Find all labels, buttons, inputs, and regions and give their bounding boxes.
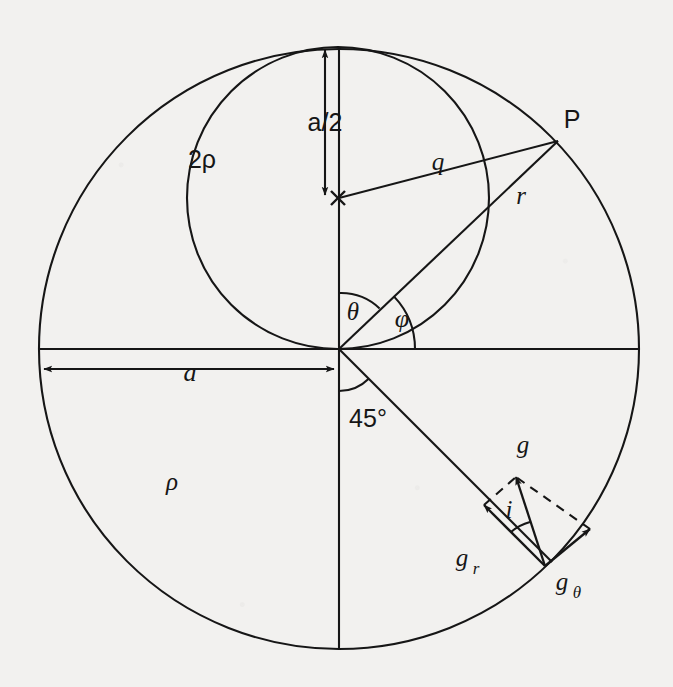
label-g-r-base: g [456, 544, 469, 571]
label-rho: ρ [165, 468, 178, 495]
angle-arc-theta [339, 293, 380, 308]
dashed-closure-right [516, 477, 590, 529]
label-point-p: P [564, 105, 581, 133]
label-angle-45: 45° [349, 404, 387, 432]
label-g-theta-base: g [556, 568, 569, 595]
label-phi: φ [395, 304, 409, 333]
vector-g-theta [545, 529, 590, 566]
geometry-figure: a/2 2ρ ρ a q r P θ φ 45° g i g r g θ [0, 0, 673, 687]
label-r: r [516, 182, 526, 209]
label-g-theta-sub: θ [573, 583, 581, 602]
diagram-page: a/2 2ρ ρ a q r P θ φ 45° g i g r g θ [0, 0, 673, 687]
label-q: q [432, 148, 445, 175]
label-two-rho: 2ρ [188, 145, 216, 173]
label-g-theta: g θ [556, 568, 581, 602]
label-a-half: a/2 [308, 108, 343, 136]
label-g-r: g r [456, 544, 480, 578]
label-g-r-sub: r [473, 559, 480, 578]
label-theta: θ [347, 298, 359, 325]
angle-arc-45 [339, 379, 369, 391]
label-a: a [184, 358, 197, 387]
segment-r [339, 141, 558, 349]
label-i: i [506, 496, 513, 523]
label-g: g [517, 431, 530, 458]
